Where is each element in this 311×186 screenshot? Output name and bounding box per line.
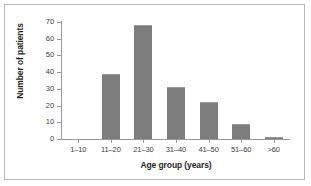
y-axis-tick <box>57 89 61 90</box>
bar <box>265 137 283 139</box>
y-axis-tick <box>57 55 61 56</box>
x-axis-tick-label: 11–20 <box>95 145 128 154</box>
x-axis-tick <box>143 140 144 143</box>
y-axis-tick-label: 10 <box>46 118 54 126</box>
bar <box>102 74 120 139</box>
y-axis-tick <box>57 106 61 107</box>
y-axis-tick-label: 30 <box>46 85 54 93</box>
x-axis-tick-label: 51–60 <box>225 145 258 154</box>
x-axis-tick <box>78 140 79 143</box>
y-axis-title: Number of patients <box>15 18 25 104</box>
bar <box>167 87 185 139</box>
y-axis-tick-label: 60 <box>46 35 54 43</box>
x-axis-tick <box>241 140 242 143</box>
y-axis-tick <box>57 22 61 23</box>
bar <box>200 102 218 139</box>
bar <box>232 124 250 139</box>
x-axis-tick-label: >60 <box>257 145 290 154</box>
y-axis-tick-label: 70 <box>46 18 54 26</box>
y-axis-tick-label: 0 <box>50 135 54 143</box>
chart-figure: 010203040506070 1–1011–2021–3031–4041–50… <box>0 0 311 186</box>
y-axis-tick <box>57 122 61 123</box>
y-axis-tick <box>57 39 61 40</box>
plot-area <box>62 22 290 139</box>
y-axis-tick-label: 50 <box>46 51 54 59</box>
y-axis-tick-label: 20 <box>46 102 54 110</box>
x-axis-title: Age group (years) <box>62 160 290 170</box>
y-axis-tick <box>57 139 61 140</box>
x-axis-tick <box>274 140 275 143</box>
y-axis-tick <box>57 72 61 73</box>
x-axis-tick-label: 1–10 <box>62 145 95 154</box>
x-axis-tick-label: 31–40 <box>160 145 193 154</box>
x-axis-tick <box>209 140 210 143</box>
x-axis-tick <box>111 140 112 143</box>
x-axis-tick <box>176 140 177 143</box>
x-axis-tick-label: 41–50 <box>192 145 225 154</box>
x-axis-tick-label: 21–30 <box>127 145 160 154</box>
bar <box>134 25 152 139</box>
y-axis-tick-label: 40 <box>46 68 54 76</box>
